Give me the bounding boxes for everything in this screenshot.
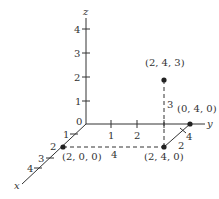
vertical-height-3-label: 3 bbox=[167, 99, 173, 110]
x-tick-label-2: 2 bbox=[50, 141, 56, 152]
z-tick-label-3: 3 bbox=[74, 48, 80, 59]
point-label-0-4-0: (0, 4, 0) bbox=[177, 103, 217, 114]
dashed-length-4-label: 4 bbox=[111, 149, 117, 160]
y-tick-label-2: 2 bbox=[134, 130, 140, 141]
origin-label: 0 bbox=[76, 116, 82, 127]
point-label-2-4-3: (2, 4, 3) bbox=[145, 57, 185, 68]
z-axis-label: z bbox=[82, 6, 89, 17]
point-2-0-0 bbox=[60, 144, 65, 149]
point-label-2-0-0: (2, 0, 0) bbox=[62, 151, 102, 162]
point-label-2-4-0: (2, 4, 0) bbox=[144, 151, 184, 162]
x-tick-label-3: 3 bbox=[38, 153, 44, 164]
y-edge-tick-4-label: 4 bbox=[186, 131, 192, 142]
z-tick-label-1: 1 bbox=[75, 96, 81, 107]
x-axis-label: x bbox=[14, 180, 20, 191]
point-2-4-3 bbox=[161, 77, 166, 82]
x-tick-label-4: 4 bbox=[27, 163, 33, 174]
y-axis-label: y bbox=[206, 118, 213, 129]
y-tick-label-1: 1 bbox=[108, 130, 114, 141]
z-tick-label-4: 4 bbox=[74, 24, 80, 35]
z-tick-label-2: 2 bbox=[74, 72, 80, 83]
x-tick-label-1: 1 bbox=[63, 129, 69, 140]
point-0-4-0 bbox=[187, 121, 192, 126]
3d-coordinate-diagram: z y x 0 4 3 2 1 1 2 1 2 3 4 (2, 0, 0) (2… bbox=[0, 0, 219, 199]
point-2-4-0 bbox=[161, 144, 166, 149]
diagonal-length-2-label: 2 bbox=[178, 140, 184, 151]
